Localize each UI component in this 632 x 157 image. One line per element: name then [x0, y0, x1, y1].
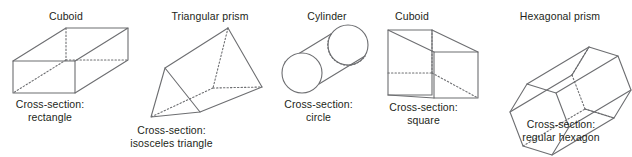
shape-title-hexagonal-prism: Hexagonal prism	[498, 10, 622, 23]
cross-section-caption-triangular-prism: Cross-section: isosceles triangle	[110, 124, 233, 150]
cuboid-square-shape	[388, 30, 478, 98]
cross-section-label: Cross-section:	[110, 124, 233, 137]
cylinder-hidden-arc	[328, 34, 365, 65]
cross-section-label: Cross-section:	[0, 98, 100, 111]
cuboid2-back-face	[388, 30, 432, 95]
shape-title-triangular-prism: Triangular prism	[148, 10, 272, 23]
cuboid2-edge-top-right	[432, 30, 478, 52]
cross-section-caption-cuboid-square: Cross-section: square	[375, 101, 472, 127]
prism-front-triangle	[151, 68, 200, 117]
cross-section-value: rectangle	[0, 111, 100, 124]
cuboid2-edge-top-left	[388, 30, 434, 52]
prism-right-face	[200, 28, 262, 112]
cross-section-caption-cuboid-rectangle: Cross-section: rectangle	[0, 98, 100, 124]
cross-section-value: square	[375, 114, 472, 127]
cross-section-label: Cross-section:	[498, 118, 624, 131]
cylinder-shape	[282, 25, 368, 93]
cross-section-caption-hexagonal-prism: Cross-section: regular hexagon	[498, 118, 624, 144]
cylinder-front-circle	[282, 53, 322, 93]
triangular-prism-shape	[151, 28, 262, 117]
cross-section-caption-cylinder: Cross-section: circle	[270, 98, 367, 124]
cylinder-back-circle	[328, 25, 368, 65]
cross-section-label: Cross-section:	[270, 98, 367, 111]
cross-section-value: circle	[270, 111, 367, 124]
cylinder-bottom-side	[319, 56, 365, 84]
shape-title-cylinder: Cylinder	[282, 10, 372, 23]
cuboid-top-face	[13, 28, 128, 61]
cross-section-value: isosceles triangle	[110, 137, 233, 150]
shape-title-cuboid-rectangle: Cuboid	[0, 10, 132, 23]
prism-ridge-edge	[165, 28, 228, 68]
cuboid2-front-face	[434, 52, 478, 98]
cuboid-front-face	[13, 61, 75, 93]
shapes-cross-sections-figure: Cuboid Cross-section: rectangle Triangul…	[0, 0, 632, 157]
cross-section-value: regular hexagon	[498, 131, 624, 144]
cross-section-label: Cross-section:	[375, 101, 472, 114]
cuboid-rectangle-shape	[13, 28, 128, 93]
shape-title-cuboid-square: Cuboid	[380, 10, 444, 23]
